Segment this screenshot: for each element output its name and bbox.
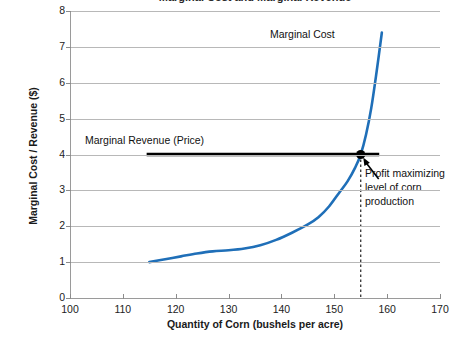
y-axis-label: Marginal Cost / Revenue ($) (27, 31, 39, 281)
x-tick-label: 100 (50, 303, 90, 315)
x-tick-label: 150 (314, 303, 354, 315)
gridline-horizontal (70, 11, 440, 12)
x-axis-line (70, 298, 440, 299)
y-tick-mark (66, 226, 71, 227)
chart-title: Marginal Cost and Marginal Revenue (70, 0, 440, 3)
annotation-marginal-cost: Marginal Cost (270, 28, 335, 40)
y-tick-label: 0 (46, 291, 65, 303)
annotation-arrow-head (363, 158, 370, 167)
x-tick-label: 170 (420, 303, 455, 315)
x-tick-mark (176, 294, 177, 299)
x-tick-mark (123, 294, 124, 299)
x-tick-mark (387, 294, 388, 299)
y-tick-label: 5 (46, 112, 65, 124)
y-tick-label: 2 (46, 219, 65, 231)
gridline-horizontal (70, 226, 440, 227)
plot-area: Marginal Cost Marginal Revenue (Price) P… (70, 11, 440, 298)
y-tick-mark (66, 262, 71, 263)
y-tick-mark (66, 155, 71, 156)
x-tick-label: 140 (261, 303, 301, 315)
y-tick-label: 8 (46, 4, 65, 16)
y-tick-mark (66, 119, 71, 120)
y-tick-label: 4 (46, 148, 65, 160)
y-tick-label: 7 (46, 40, 65, 52)
gridline-horizontal (70, 190, 440, 191)
y-tick-mark (66, 190, 71, 191)
y-tick-mark (66, 11, 71, 12)
y-tick-mark (66, 83, 71, 84)
x-tick-mark (70, 294, 71, 299)
x-tick-label: 130 (209, 303, 249, 315)
gridline-horizontal (70, 262, 440, 263)
y-tick-label: 6 (46, 76, 65, 88)
x-tick-mark (334, 294, 335, 299)
x-tick-mark (281, 294, 282, 299)
y-tick-mark (66, 47, 71, 48)
gridline-horizontal (70, 47, 440, 48)
x-tick-mark (440, 294, 441, 299)
y-tick-label: 1 (46, 255, 65, 267)
gridline-horizontal (70, 119, 440, 120)
gridline-horizontal (70, 83, 440, 84)
x-tick-label: 110 (103, 303, 143, 315)
x-tick-label: 120 (156, 303, 196, 315)
series-line-marginal-cost (149, 33, 382, 263)
chart-figure: Marginal Cost and Marginal Revenue Margi… (0, 0, 455, 340)
x-axis-label: Quantity of Corn (bushels per acre) (70, 318, 440, 330)
x-tick-label: 160 (367, 303, 407, 315)
x-tick-mark (229, 294, 230, 299)
y-tick-label: 3 (46, 183, 65, 195)
annotation-profit-maximizing: Profit maximizing level of corn producti… (365, 166, 455, 208)
annotation-marginal-revenue: Marginal Revenue (Price) (85, 134, 204, 146)
gridline-horizontal (70, 155, 440, 156)
